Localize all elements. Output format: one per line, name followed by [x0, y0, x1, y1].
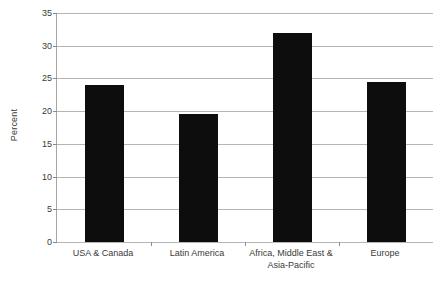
bar [367, 82, 406, 242]
y-tick-label: 35 [42, 8, 52, 18]
x-tick-mark [245, 242, 246, 246]
bar [179, 114, 218, 242]
x-tick-mark [339, 242, 340, 246]
bar [85, 85, 124, 242]
bars-group [57, 13, 433, 242]
x-axis-label: Africa, Middle East &Asia-Pacific [244, 248, 338, 271]
bar [273, 33, 312, 242]
bar-chart: Percent 05101520253035 USA & CanadaLatin… [0, 0, 447, 287]
x-axis-label-line: Latin America [170, 248, 225, 258]
x-axis-labels-group: USA & CanadaLatin AmericaAfrica, Middle … [56, 248, 432, 286]
y-tick-label: 20 [42, 106, 52, 116]
y-tick-label: 0 [47, 237, 52, 247]
x-axis-label: USA & Canada [56, 248, 150, 260]
plot-area: 05101520253035 [56, 13, 433, 243]
y-tick-label: 5 [47, 204, 52, 214]
y-tick-label: 30 [42, 41, 52, 51]
x-axis-label-line: Europe [370, 248, 399, 258]
y-tick-mark [53, 242, 57, 243]
x-tick-mark [151, 242, 152, 246]
x-axis-label-line: Asia-Pacific [244, 260, 338, 272]
y-tick-label: 10 [42, 172, 52, 182]
x-axis-label-line: Africa, Middle East & [249, 248, 333, 258]
y-axis-title: Percent [2, 0, 26, 250]
y-tick-label: 25 [42, 73, 52, 83]
x-axis-label: Europe [338, 248, 432, 260]
y-tick-label: 15 [42, 139, 52, 149]
x-axis-label: Latin America [150, 248, 244, 260]
y-axis-title-label: Percent [9, 109, 19, 141]
x-axis-label-line: USA & Canada [73, 248, 134, 258]
